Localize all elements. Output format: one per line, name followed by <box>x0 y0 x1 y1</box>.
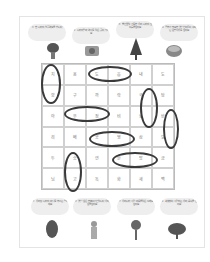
answer-oval <box>64 152 82 192</box>
grid-cell[interactable]: 배 <box>64 127 86 148</box>
grid-cell[interactable]: 독 <box>86 168 108 189</box>
grid-cell[interactable]: 락 <box>108 85 130 106</box>
grid-cell[interactable]: 용 <box>64 64 86 85</box>
grid-cell[interactable]: 도 <box>152 64 174 85</box>
grid-cell[interactable]: 리 <box>42 127 64 148</box>
answer-oval <box>88 66 132 82</box>
bowl-character-icon <box>165 42 183 60</box>
answer-oval <box>41 64 61 104</box>
grid-cell[interactable]: 아 <box>42 106 64 127</box>
answer-oval <box>140 88 158 128</box>
answer-oval <box>64 106 110 122</box>
grid-cell[interactable]: 님 <box>42 168 64 189</box>
tree-character-icon <box>130 38 142 60</box>
clue-bubble-7: ⑦ 우리나라 사람 마음을 담은 노래를 찾아요 <box>117 198 155 215</box>
drum-character-icon <box>84 43 100 59</box>
figure-character-icon <box>88 220 100 242</box>
clue-bubble-3: ③ 빨간 꽃잎 가득한 우리 나라의 꽃 이름을 찾아요 <box>116 21 154 38</box>
grid-cell[interactable]: 두 <box>42 147 64 168</box>
bug-character-icon <box>167 220 187 240</box>
grid-cell[interactable]: 까 <box>86 85 108 106</box>
grid-cell[interactable]: 내 <box>130 64 152 85</box>
clue-bubble-5: ⑤ 우리 땅 나라의 바닷물 부르는 말이에요 <box>31 198 69 215</box>
grid-cell[interactable]: 백 <box>152 168 174 189</box>
word-search-grid: 치 용 도 읍 내 도 향 구 까 락 국 탐 아 우 정 비 보 반 리 배 … <box>41 63 175 190</box>
answer-oval <box>163 109 179 149</box>
clue-bubble-2: ② 나라의 말과 역사를 담은 곳이 있어요 <box>72 27 110 44</box>
clue-bubble-4: ④ 공부가 필요한 옛날 선비들이 꾸미던 문방사우를 찾아요 <box>160 24 198 41</box>
flower-character-icon <box>128 219 144 241</box>
clue-bubble-8: ⑧ 세계 많이 사랑하는 우리 음식을 찾아요 <box>160 198 198 215</box>
grid-cell[interactable]: 구 <box>64 85 86 106</box>
pinecone-character-icon <box>45 220 59 240</box>
grid-cell[interactable]: 새 <box>130 168 152 189</box>
clue-bubble-1: ① 한 나라의 얼굴 역할을 합니다 <box>28 24 66 41</box>
answer-oval <box>89 131 135 147</box>
clue-bubble-6: ⑥ 옛날 옷은 한복이 기본입니다 우리 옷을 찾아요 <box>73 198 111 215</box>
character-icon <box>46 42 60 60</box>
grid-cell[interactable]: 화 <box>108 168 130 189</box>
grid-cell[interactable]: 연 <box>86 147 108 168</box>
grid-cell[interactable]: 비 <box>108 106 130 127</box>
answer-oval <box>112 152 158 168</box>
